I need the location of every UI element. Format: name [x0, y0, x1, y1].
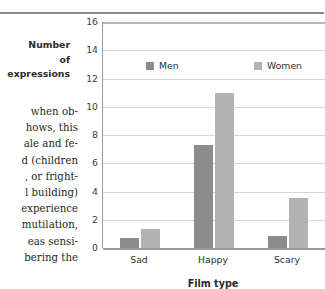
y-tick-label: 4: [72, 187, 98, 196]
bar-scary-women: [289, 198, 308, 248]
body-text-line: ale and fe-: [0, 136, 78, 152]
y-tick-label: 6: [72, 158, 98, 167]
y-tick-label: 12: [72, 74, 98, 83]
bar-scary-men: [268, 236, 287, 248]
y-tick-label: 16: [72, 17, 98, 26]
y-tick-label: 0: [72, 243, 98, 252]
y-axis-title: Numberofexpressions: [0, 38, 70, 82]
body-text-line: mutilation,: [0, 217, 78, 233]
gridline: [103, 107, 325, 108]
body-text-line: when ob-: [0, 104, 78, 120]
legend-swatch-icon: [254, 62, 262, 70]
x-tick-label-scary: Scary: [257, 254, 317, 265]
legend-item-men[interactable]: Men: [146, 60, 179, 71]
gridline: [103, 163, 325, 164]
gridline: [103, 50, 325, 51]
body-text-line: experience: [0, 201, 78, 217]
page-body-text: when ob-hows, thisale and fe-d (children…: [0, 104, 78, 266]
y-axis-title-line: Number: [0, 38, 70, 53]
y-tick-label: 8: [72, 130, 98, 139]
plot-area: 1614121086420: [102, 22, 324, 248]
gridline: [103, 22, 325, 24]
body-text-line: eas sensi-: [0, 234, 78, 250]
body-text-line: d (children: [0, 153, 78, 169]
y-tick-label: 10: [72, 102, 98, 111]
bar-sad-men: [120, 238, 139, 248]
gridline: [103, 135, 325, 136]
bar-happy-men: [194, 145, 213, 248]
bar-sad-women: [141, 229, 160, 248]
legend-item-women[interactable]: Women: [254, 60, 302, 71]
chart-legend: MenWomen: [102, 60, 324, 76]
y-axis-title-line: of: [0, 53, 70, 68]
x-tick-label-sad: Sad: [109, 254, 169, 265]
gridline: [103, 248, 325, 250]
body-text-line: , or fright-: [0, 169, 78, 185]
body-text-line: bering the: [0, 250, 78, 266]
y-tick-label: 14: [72, 45, 98, 54]
gridline: [103, 192, 325, 193]
gridline: [103, 79, 325, 80]
x-tick-label-happy: Happy: [183, 254, 243, 265]
bar-chart: 1614121086420 MenWomen Film type SadHapp…: [72, 16, 324, 266]
y-axis-title-line: expressions: [0, 67, 70, 82]
bar-happy-women: [215, 93, 234, 248]
y-tick-label: 2: [72, 215, 98, 224]
legend-swatch-icon: [146, 62, 154, 70]
legend-label: Women: [267, 60, 302, 71]
x-axis-title: Film type: [102, 278, 324, 289]
body-text-line: hows, this: [0, 120, 78, 136]
legend-label: Men: [159, 60, 179, 71]
body-text-line: l building): [0, 185, 78, 201]
page-top-rule: [0, 12, 324, 14]
